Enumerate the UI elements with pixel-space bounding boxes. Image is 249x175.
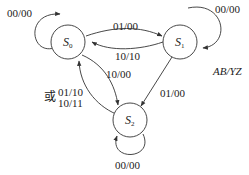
label-s1-s2: 01/00 <box>160 87 186 99</box>
state-diagram: S0 S1 S2 00/00 00/00 00/00 01/00 10/10 1… <box>0 0 249 175</box>
legend-label: AB/YZ <box>212 65 243 77</box>
label-s0-loop: 00/00 <box>7 7 33 19</box>
state-s2: S2 <box>113 103 147 137</box>
label-s0-s2: 10/00 <box>106 68 132 80</box>
label-s2-loop: 00/00 <box>115 159 141 171</box>
state-s1: S1 <box>163 25 197 59</box>
state-s0: S0 <box>51 25 85 59</box>
edge-s0-s2 <box>82 55 118 105</box>
label-s2-s0-line2: 10/11 <box>58 97 83 109</box>
label-s1-loop: 00/00 <box>215 3 241 15</box>
edge-s1-s0 <box>92 42 163 49</box>
label-s1-s0: 10/10 <box>115 50 141 62</box>
label-s0-s1: 01/00 <box>113 20 139 32</box>
label-s2-s0-prefix: 或 <box>44 90 56 104</box>
